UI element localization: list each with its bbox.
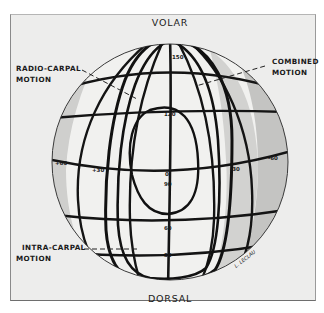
tick-minus-60: -60 [268,155,278,161]
tick-minus-30: -30 [230,166,240,172]
radio-carpal-label-line2: MOTION [16,75,51,84]
tick-150: 150 [172,54,184,60]
tick-90: 90 [164,181,172,187]
tick-plus-30: +30 [92,167,104,173]
tick-30: 30 [164,252,172,258]
wrist-motion-globe-diagram: VOLAR DORSAL RADIO-CARPAL MOTION COMBINE… [0,0,324,313]
intra-carpal-label-line2: MOTION [16,254,51,263]
tick-60: 60 [164,225,172,231]
tick-plus-60: +60 [55,160,67,166]
pole-label-volar: VOLAR [152,17,188,28]
combined-label-line2: MOTION [272,68,307,77]
radio-carpal-label-line1: RADIO-CARPAL [16,64,81,73]
pole-label-dorsal: DORSAL [148,293,192,304]
tick-0: 0 [165,171,169,177]
combined-label-line1: COMBINED [272,57,319,66]
intra-carpal-label-line1: INTRA-CARPAL [22,243,86,252]
tick-120: 120 [164,111,176,117]
